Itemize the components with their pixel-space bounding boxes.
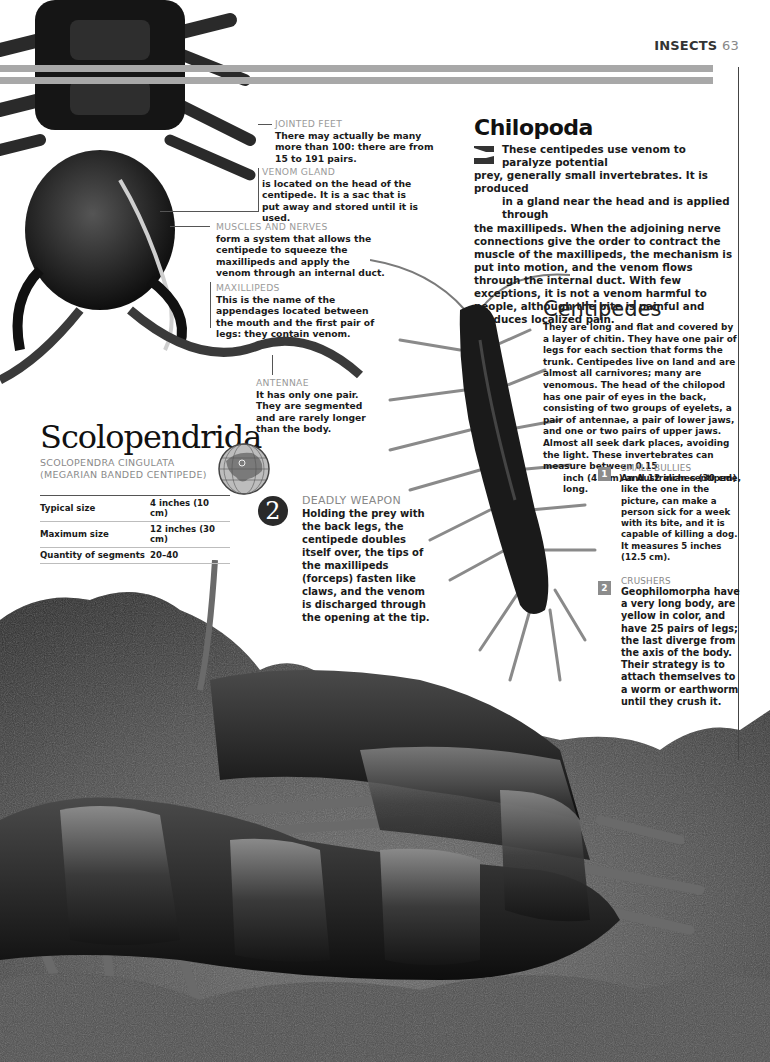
- section-title: INSECTS: [654, 38, 717, 53]
- deadly-weapon-label: DEADLY WEAPON: [302, 494, 430, 507]
- leader-line: [272, 355, 273, 375]
- leader-line: [210, 282, 211, 328]
- chilopoda-line-2: prey, generally small invertebrates. It …: [474, 169, 708, 194]
- note-label: CRUSHERS: [621, 576, 741, 586]
- fact-key: Typical size: [40, 496, 150, 522]
- fact-key: Maximum size: [40, 522, 150, 548]
- note-label: SMALL BULLIES: [621, 463, 741, 473]
- callout-text: is located on the head of the centipede.…: [262, 178, 422, 224]
- common-name: (MEGARIAN BANDED CENTIPEDE): [40, 469, 210, 481]
- table-row: Quantity of segments 20–40: [40, 548, 230, 564]
- callout-jointed-feet: JOINTED FEET There may actually be many …: [275, 118, 435, 164]
- chilopoda-line-1: These centipedes use venom to paralyze p…: [502, 143, 686, 168]
- leader-line: [258, 124, 272, 125]
- centipedes-heading: Centipedes: [543, 297, 661, 321]
- chilopoda-line-3: in a gland near the head and is applied …: [474, 195, 736, 221]
- callout-label: MAXILLIPEDS: [216, 282, 386, 294]
- note-number-badge: 2: [598, 581, 611, 595]
- note-text: Geophilomorpha have a very long body, ar…: [621, 586, 741, 708]
- scientific-name: SCOLOPENDRA CINGULATA: [40, 457, 210, 469]
- centipedes-text: They are long and flat and covered by a …: [543, 322, 737, 471]
- callout-label: JOINTED FEET: [275, 118, 435, 130]
- species-subtitle: SCOLOPENDRA CINGULATA (MEGARIAN BANDED C…: [40, 457, 210, 481]
- header-stripe-bottom: [0, 77, 713, 84]
- callout-muscles-nerves: MUSCLES AND NERVES form a system that al…: [216, 221, 386, 279]
- leader-line: [160, 211, 259, 212]
- fact-value: 4 inches (10 cm): [150, 496, 230, 522]
- callout-text: It has only one pair. They are segmented…: [256, 389, 376, 435]
- callout-antennae: ANTENNAE It has only one pair. They are …: [256, 377, 376, 435]
- fact-value: 12 inches (30 cm): [150, 522, 230, 548]
- fact-value: 20–40: [150, 548, 230, 564]
- note-crushers: CRUSHERS Geophilomorpha have a very long…: [621, 576, 741, 708]
- note-number-badge: 1: [598, 467, 611, 481]
- globe-asia-icon: [218, 443, 270, 495]
- callout-label: VENOM GLAND: [262, 166, 422, 178]
- table-row: Maximum size 12 inches (30 cm): [40, 522, 230, 548]
- step-number-circle: 2: [258, 496, 288, 526]
- species-facts-table: Typical size 4 inches (10 cm) Maximum si…: [40, 495, 230, 564]
- note-text: An Australian centipede, like the one in…: [621, 473, 741, 563]
- running-head: INSECTS 63: [654, 38, 739, 53]
- note-small-bullies: SMALL BULLIES An Australian centipede, l…: [621, 463, 741, 563]
- page-number: 63: [722, 38, 739, 53]
- callout-text: There may actually be many more than 100…: [275, 130, 435, 165]
- leader-line: [258, 168, 259, 212]
- table-row: Typical size 4 inches (10 cm): [40, 496, 230, 522]
- leader-line: [170, 226, 210, 227]
- fact-key: Quantity of segments: [40, 548, 150, 564]
- arrow-flag-icon: [474, 145, 494, 165]
- header-stripe-top: [0, 65, 713, 72]
- deadly-weapon-text: Holding the prey with the back legs, the…: [302, 507, 430, 624]
- deadly-weapon-note: DEADLY WEAPON Holding the prey with the …: [302, 494, 430, 624]
- chilopoda-heading: Chilopoda: [474, 115, 593, 140]
- callout-maxillipeds: MAXILLIPEDS This is the name of the appe…: [216, 282, 386, 340]
- callout-label: ANTENNAE: [256, 377, 376, 389]
- callout-label: MUSCLES AND NERVES: [216, 221, 386, 233]
- callout-text: This is the name of the appendages locat…: [216, 294, 386, 340]
- callout-venom-gland: VENOM GLAND is located on the head of th…: [262, 166, 422, 224]
- callout-text: form a system that allows the centipede …: [216, 233, 386, 279]
